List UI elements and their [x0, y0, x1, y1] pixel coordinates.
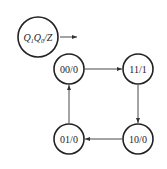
- state-diagram: Q1Q0/Z 00/0 11/1 10/0 01/0: [0, 0, 167, 169]
- legend-node: Q1Q0/Z: [18, 17, 58, 57]
- state-10: 10/0: [123, 124, 153, 154]
- state-11: 11/1: [123, 54, 153, 84]
- state-00: 00/0: [54, 54, 84, 84]
- state-label: 01/0: [60, 134, 78, 145]
- legend-label: Q1Q0/Z: [24, 32, 53, 44]
- state-label: 00/0: [60, 64, 78, 75]
- state-label: 10/0: [129, 134, 147, 145]
- state-label: 11/1: [129, 64, 146, 75]
- state-01: 01/0: [54, 124, 84, 154]
